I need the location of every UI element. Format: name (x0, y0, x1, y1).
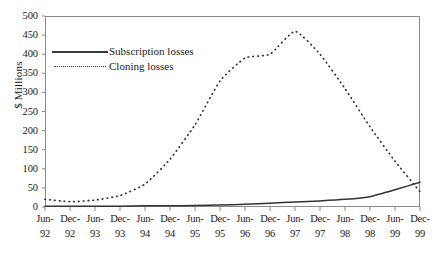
legend-label: Cloning losses (109, 59, 173, 74)
chart-legend: Subscription lossesCloning losses (52, 44, 194, 74)
legend-label: Subscription losses (109, 44, 194, 59)
x-tick-month: Dec- (400, 213, 434, 225)
line-chart: $ Millions 05010015020025030035040045050… (0, 0, 434, 255)
legend-item: Cloning losses (52, 59, 194, 74)
legend-item: Subscription losses (52, 44, 194, 59)
series-line-subscription-losses (45, 182, 420, 206)
legend-swatch-dotted-line-icon (52, 62, 108, 72)
legend-swatch-solid-line-icon (52, 47, 108, 57)
x-tick-year: 99 (400, 228, 434, 240)
x-tick-label: Dec-99 (400, 213, 434, 240)
